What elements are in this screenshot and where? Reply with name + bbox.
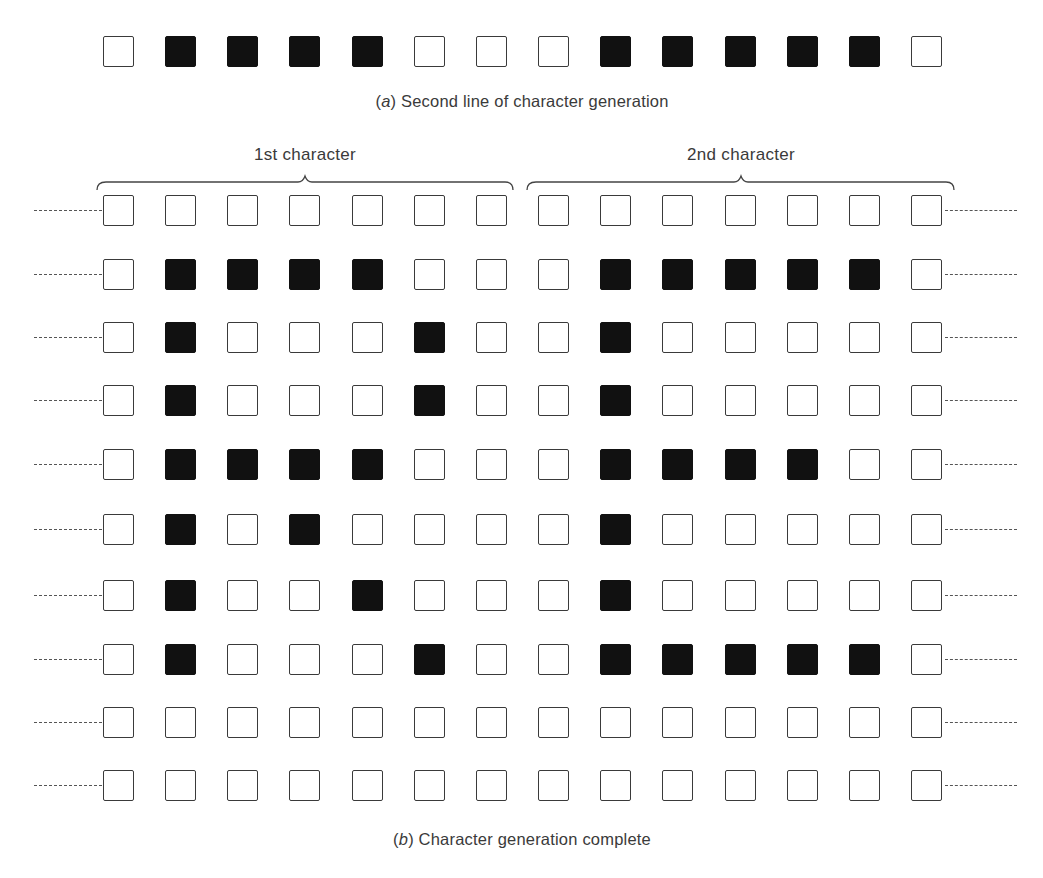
continuation-line-left — [34, 659, 102, 660]
dot-off — [911, 644, 942, 675]
dot-off — [600, 707, 631, 738]
dot-on — [849, 644, 880, 675]
dot-off — [476, 770, 507, 801]
dot-off — [352, 514, 383, 545]
dot-on — [600, 644, 631, 675]
dot-off — [227, 644, 258, 675]
dot-on — [725, 259, 756, 290]
continuation-line-right — [945, 337, 1017, 338]
continuation-line-right — [945, 464, 1017, 465]
dot-off — [538, 770, 569, 801]
dot-off — [911, 580, 942, 611]
continuation-line-left — [34, 785, 102, 786]
dot-off — [289, 322, 320, 353]
dot-off — [787, 707, 818, 738]
dot-on — [600, 580, 631, 611]
dot-off — [725, 770, 756, 801]
dot-off — [352, 385, 383, 416]
dot-off — [289, 644, 320, 675]
dot-off — [787, 770, 818, 801]
second-character-brace — [527, 176, 954, 190]
dot-off — [725, 385, 756, 416]
dot-off — [911, 449, 942, 480]
dot-off — [352, 770, 383, 801]
continuation-line-right — [945, 210, 1017, 211]
dot-on — [227, 449, 258, 480]
dot-off — [476, 580, 507, 611]
continuation-line-right — [945, 400, 1017, 401]
dot-off — [103, 449, 134, 480]
dot-off — [911, 514, 942, 545]
dot-off — [662, 385, 693, 416]
dot-off — [662, 322, 693, 353]
dot-off — [227, 514, 258, 545]
dot-on — [600, 259, 631, 290]
dot-on — [414, 644, 445, 675]
dot-on — [165, 259, 196, 290]
dot-on — [352, 259, 383, 290]
dot-off — [849, 385, 880, 416]
dot-off — [414, 449, 445, 480]
dot-off — [911, 707, 942, 738]
dot-off — [538, 580, 569, 611]
dot-off — [227, 707, 258, 738]
dot-on — [662, 259, 693, 290]
continuation-line-right — [945, 595, 1017, 596]
continuation-line-right — [945, 722, 1017, 723]
continuation-line-right — [945, 529, 1017, 530]
dot-on — [787, 449, 818, 480]
continuation-line-left — [34, 464, 102, 465]
braces — [0, 0, 1043, 878]
dot-on — [725, 644, 756, 675]
dot-off — [476, 259, 507, 290]
dot-on — [600, 449, 631, 480]
dot-off — [911, 770, 942, 801]
continuation-line-left — [34, 274, 102, 275]
dot-on — [725, 449, 756, 480]
dot-off — [289, 385, 320, 416]
continuation-line-right — [945, 274, 1017, 275]
dot-off — [662, 195, 693, 226]
dot-off — [476, 195, 507, 226]
dot-on — [849, 259, 880, 290]
dot-on — [787, 644, 818, 675]
dot-off — [103, 580, 134, 611]
dot-off — [725, 514, 756, 545]
dot-off — [725, 707, 756, 738]
dot-off — [538, 644, 569, 675]
continuation-line-left — [34, 595, 102, 596]
dot-off — [165, 707, 196, 738]
dot-off — [165, 770, 196, 801]
dot-on — [662, 449, 693, 480]
dot-off — [849, 770, 880, 801]
continuation-line-left — [34, 210, 102, 211]
dot-on — [165, 644, 196, 675]
dot-off — [787, 580, 818, 611]
dot-on — [352, 580, 383, 611]
dot-off — [289, 195, 320, 226]
dot-off — [414, 514, 445, 545]
continuation-line-left — [34, 529, 102, 530]
dot-off — [352, 195, 383, 226]
dot-off — [600, 195, 631, 226]
dot-off — [289, 707, 320, 738]
dot-off — [227, 322, 258, 353]
dot-off — [476, 449, 507, 480]
dot-off — [352, 322, 383, 353]
dot-off — [165, 195, 196, 226]
dot-off — [476, 644, 507, 675]
dot-off — [227, 580, 258, 611]
dot-off — [538, 707, 569, 738]
dot-on — [289, 259, 320, 290]
dot-off — [849, 322, 880, 353]
dot-off — [538, 259, 569, 290]
dot-off — [849, 195, 880, 226]
dot-off — [476, 707, 507, 738]
caption-b-text: Character generation complete — [414, 830, 651, 848]
dot-off — [227, 385, 258, 416]
dot-off — [662, 580, 693, 611]
dot-off — [538, 449, 569, 480]
dot-off — [414, 707, 445, 738]
continuation-line-right — [945, 785, 1017, 786]
dot-off — [289, 580, 320, 611]
